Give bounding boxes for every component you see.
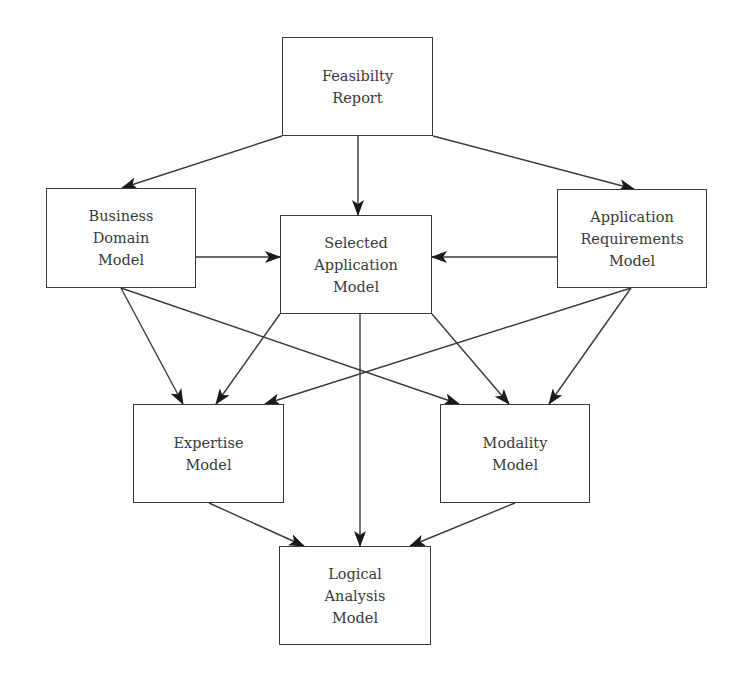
node-label-line: Domain <box>93 227 150 249</box>
node-label-line: Model <box>609 250 655 272</box>
node-label-line: Modality <box>483 432 548 454</box>
node-expertise-model: Expertise Model <box>133 404 284 503</box>
node-label-line: Requirements <box>580 228 683 250</box>
node-modality-model: Modality Model <box>440 404 590 503</box>
node-label-line: Logical <box>328 563 382 585</box>
diagram-canvas: Feasibilty Report Business Domain Model … <box>0 0 735 687</box>
node-label-line: Application <box>590 206 674 228</box>
node-application-requirements-model: Application Requirements Model <box>557 189 707 288</box>
edge-feasibility-to-requirements <box>433 136 634 189</box>
edge-expertise-to-logical <box>209 503 304 546</box>
node-business-domain-model: Business Domain Model <box>46 188 196 288</box>
node-label-line: Feasibilty <box>322 65 393 87</box>
edge-modality-to-logical <box>410 503 515 546</box>
edge-selected-to-expertise <box>216 314 280 404</box>
node-label-line: Model <box>333 276 379 298</box>
node-selected-application-model: Selected Application Model <box>280 215 432 314</box>
node-label-line: Analysis <box>325 585 386 607</box>
node-label-line: Selected <box>324 232 388 254</box>
node-label-line: Report <box>332 87 382 109</box>
node-label-line: Application <box>314 254 398 276</box>
node-label-line: Business <box>89 205 154 227</box>
node-label-line: Expertise <box>173 432 243 454</box>
node-logical-analysis-model: Logical Analysis Model <box>279 546 431 645</box>
node-label-line: Model <box>492 454 538 476</box>
node-label-line: Model <box>332 607 378 629</box>
edge-requirements-to-modality <box>549 288 631 404</box>
node-label-line: Model <box>98 249 144 271</box>
node-feasibility-report: Feasibilty Report <box>282 37 433 136</box>
edge-feasibility-to-business <box>122 136 282 188</box>
edge-selected-to-modality <box>432 314 509 404</box>
node-label-line: Model <box>185 454 231 476</box>
